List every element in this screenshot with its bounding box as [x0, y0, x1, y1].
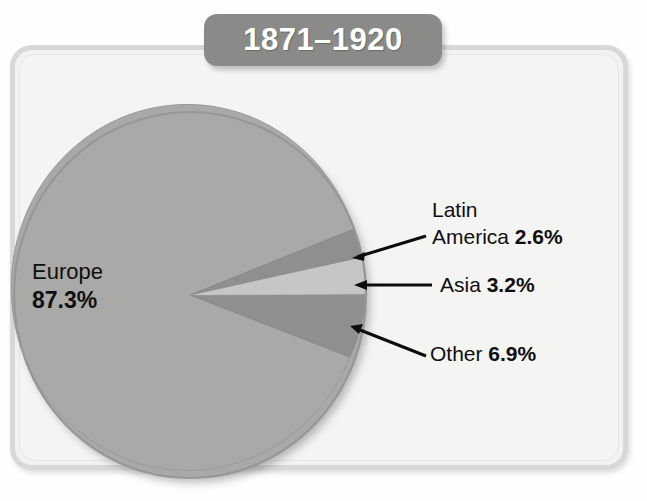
- slice-label-europe-name: Europe: [32, 258, 103, 286]
- slice-label-latin-america-name-line1: Latin: [432, 196, 563, 223]
- slice-label-europe: Europe87.3%: [32, 258, 103, 314]
- chart-title-text: 1871–1920: [243, 22, 403, 58]
- leader-line-latin-america: [357, 236, 426, 257]
- slice-label-other-name: Other: [430, 342, 488, 365]
- slice-label-other-value: 6.9%: [488, 342, 536, 365]
- slice-label-asia: Asia 3.2%: [440, 272, 535, 297]
- slice-label-latin-america-value: 2.6%: [515, 225, 563, 248]
- slice-label-latin-america: LatinAmerica 2.6%: [432, 196, 563, 250]
- slice-label-latin-america-name-line2: America: [432, 225, 515, 248]
- pie-chart-svg: [0, 0, 647, 501]
- pie-chart-figure: 1871–1920 Europe87.3%: [0, 0, 647, 501]
- slice-label-asia-value: 3.2%: [487, 273, 535, 296]
- slice-label-other: Other 6.9%: [430, 341, 536, 366]
- slice-label-asia-name: Asia: [440, 273, 487, 296]
- chart-title-badge: 1871–1920: [204, 14, 442, 66]
- leader-line-other: [355, 328, 426, 356]
- slice-label-europe-value: 87.3%: [32, 286, 103, 314]
